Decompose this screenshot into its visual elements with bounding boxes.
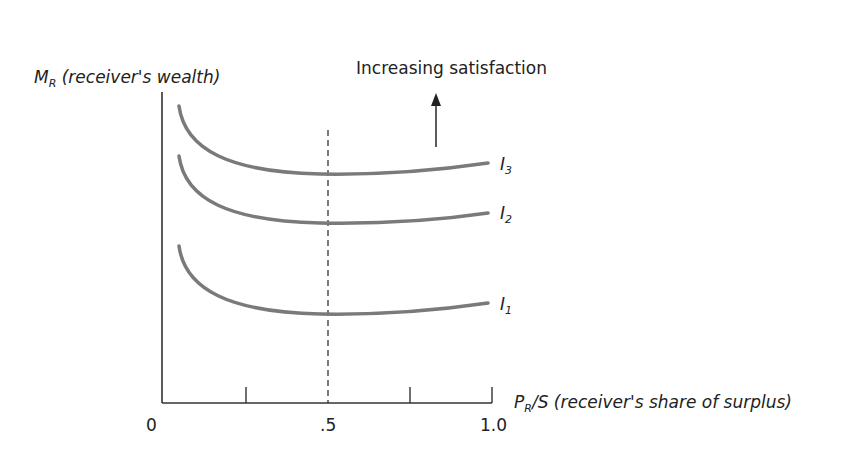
x-tick-label-0.5: .5 — [320, 417, 336, 434]
label-sub: 2 — [505, 213, 512, 226]
curve-I1 — [179, 246, 488, 314]
y-label-main: M — [34, 67, 49, 87]
x-label-rest: /S (receiver's share of surplus) — [532, 392, 792, 412]
annotation-increasing-satisfaction: Increasing satisfaction — [356, 60, 547, 77]
curve-I2 — [179, 156, 488, 223]
x-label-sub: R — [524, 402, 532, 415]
y-label-rest: (receiver's wealth) — [56, 67, 220, 87]
y-axis-label: MR (receiver's wealth) — [34, 69, 220, 89]
arrow-up-icon — [431, 93, 441, 106]
curve-label-I3: I3 — [500, 156, 512, 176]
curve-label-I1: I1 — [500, 296, 512, 316]
x-tick-label-0: 0 — [146, 417, 157, 434]
x-axis-label: PR/S (receiver's share of surplus) — [514, 394, 792, 414]
x-label-main: P — [514, 392, 524, 412]
label-sub: 3 — [505, 164, 512, 177]
curve-I3 — [179, 106, 488, 174]
curve-label-I2: I2 — [500, 205, 512, 225]
label-sub: 1 — [505, 304, 512, 317]
x-tick-label-1.0: 1.0 — [480, 417, 507, 434]
